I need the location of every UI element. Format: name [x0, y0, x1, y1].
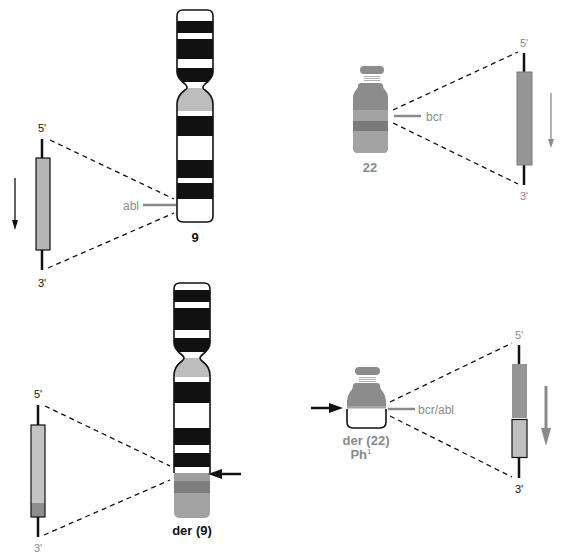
- bcr-label: bcr: [426, 110, 443, 124]
- der22-gene-3prime: 3': [515, 483, 523, 495]
- abl-gene: [36, 139, 50, 270]
- abl-label: abl: [123, 199, 139, 213]
- bcr-abl-label: bcr/abl: [418, 403, 454, 417]
- abl-gene-3prime: 3': [38, 277, 46, 289]
- chromosome-9: [170, 0, 220, 240]
- der22-label: der (22): [343, 433, 390, 448]
- bcr-gene-5prime: 5': [520, 37, 528, 49]
- breakpoint-arrow-icon: [208, 469, 241, 479]
- dashed-line: [393, 123, 518, 184]
- chromosome-22-label: 22: [363, 160, 377, 175]
- bcr-gene: [517, 53, 532, 185]
- dashed-line: [48, 213, 174, 268]
- chromosome-der22: [347, 367, 386, 428]
- der9-gene-5prime: 5': [34, 388, 42, 400]
- der9-label: der (9): [172, 523, 212, 538]
- philadelphia-label: Ph1: [350, 447, 372, 462]
- chromosome-22: [353, 66, 388, 153]
- bcr-abl-fusion-gene: [512, 345, 527, 478]
- dashed-line: [45, 406, 170, 466]
- chromosome-9-label: 9: [191, 230, 198, 245]
- abl-gene-5prime: 5': [38, 122, 46, 134]
- breakpoint-arrow-icon: [311, 403, 343, 413]
- dashed-line: [50, 140, 174, 199]
- dashed-line: [393, 52, 518, 110]
- abl-bcr-fusion-gene: [31, 405, 45, 537]
- der22-gene-5prime: 5': [515, 329, 523, 341]
- bcr-gene-3prime: 3': [520, 190, 528, 202]
- dashed-line: [390, 343, 512, 402]
- dashed-line: [390, 416, 512, 477]
- dashed-line: [44, 480, 170, 535]
- translocation-diagram: 9 abl 5' 3' 22 bcr 5' 3': [0, 0, 565, 559]
- direction-arrow-icon: [12, 178, 18, 230]
- direction-arrow-icon: [548, 93, 554, 148]
- direction-arrow-icon: [541, 386, 551, 446]
- der9-gene-3prime: 3': [34, 542, 42, 554]
- chromosome-der9: [170, 280, 215, 525]
